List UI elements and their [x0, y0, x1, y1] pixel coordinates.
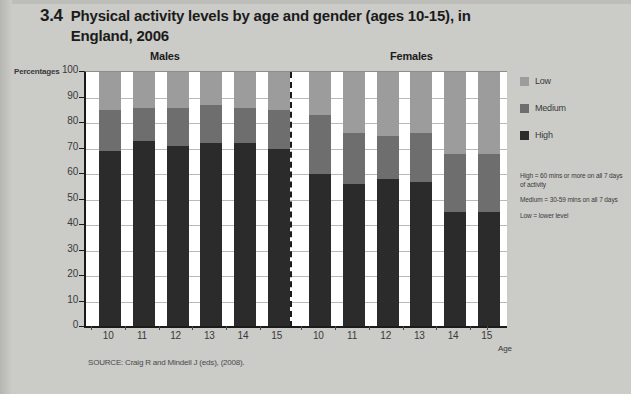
legend-item-medium: Medium	[520, 103, 625, 113]
bar-segment-low	[99, 72, 121, 110]
figure-title-row: 3.4 Physical activity levels by age and …	[40, 6, 617, 46]
chart-plot-area	[84, 71, 507, 327]
x-axis-labels: 101112131415101112131415	[84, 330, 507, 350]
bar-segment-medium	[234, 108, 256, 144]
bar-stack	[410, 72, 432, 327]
x-tick-mark	[436, 326, 437, 330]
y-tick-label: 50	[67, 192, 78, 203]
chart-legend: LowMediumHigh	[520, 76, 625, 157]
legend-item-label: Medium	[535, 103, 566, 113]
bar-segment-low	[444, 72, 466, 154]
legend-swatch-icon	[520, 77, 529, 86]
bar-segment-high	[309, 174, 331, 327]
definition-line: Medium = 30-59 mins on all 7 days	[520, 196, 628, 205]
group-header-males: Males	[150, 50, 180, 62]
page-top-edge	[0, 0, 631, 4]
legend-swatch-icon	[520, 104, 529, 113]
bar-segment-high	[234, 143, 256, 327]
bar-stack	[200, 72, 222, 327]
y-tick-label: 90	[67, 90, 78, 101]
bar-segment-low	[234, 72, 256, 108]
bar-segment-high	[99, 151, 121, 327]
bar-stack	[343, 72, 365, 327]
x-tick-mark	[470, 326, 471, 330]
x-tick-label: 15	[481, 330, 492, 341]
definition-line: Low = lower level	[520, 212, 628, 221]
x-tick-mark	[125, 326, 126, 330]
bar-segment-low	[343, 72, 365, 133]
y-tick-label: 0	[73, 319, 78, 330]
bar-stack	[268, 72, 290, 327]
group-header-females: Females	[390, 50, 433, 62]
bar-segment-high	[377, 179, 399, 327]
bar-stack	[234, 72, 256, 327]
x-tick-mark	[487, 326, 488, 330]
bar-stack	[167, 72, 189, 327]
x-tick-label: 10	[103, 330, 114, 341]
bar-segment-high	[167, 146, 189, 327]
bar-segment-high	[268, 149, 290, 328]
y-tick-label: 40	[67, 217, 78, 228]
bar-segment-low	[133, 72, 155, 108]
bar-segment-medium	[444, 154, 466, 213]
x-tick-mark	[335, 326, 336, 330]
bar-segment-medium	[377, 136, 399, 179]
bar-stack	[444, 72, 466, 327]
x-tick-label: 12	[170, 330, 181, 341]
bar-segment-medium	[309, 115, 331, 174]
bar-stack	[309, 72, 331, 327]
x-tick-label: 10	[313, 330, 324, 341]
y-tick-label: 80	[67, 115, 78, 126]
bar-stack	[99, 72, 121, 327]
x-tick-label: 13	[204, 330, 215, 341]
bar-segment-medium	[133, 108, 155, 141]
legend-item-low: Low	[520, 76, 625, 86]
bar-segment-low	[268, 72, 290, 110]
bar-segment-high	[444, 212, 466, 327]
bar-segment-medium	[99, 110, 121, 151]
legend-item-high: High	[520, 130, 625, 140]
x-tick-label: 13	[414, 330, 425, 341]
y-tick-label: 60	[67, 166, 78, 177]
bar-segment-high	[133, 141, 155, 327]
bar-segment-medium	[478, 154, 500, 213]
x-tick-label: 14	[448, 330, 459, 341]
bar-segment-high	[343, 184, 365, 327]
bar-segment-low	[309, 72, 331, 115]
gender-divider	[290, 72, 292, 327]
y-tick-label: 10	[67, 294, 78, 305]
bar-segment-low	[167, 72, 189, 108]
x-tick-mark	[159, 326, 160, 330]
legend-item-label: Low	[535, 76, 551, 86]
bar-segment-low	[377, 72, 399, 136]
bar-segment-low	[478, 72, 500, 154]
page-title: Physical activity levels by age and gend…	[71, 6, 501, 46]
bar-segment-low	[410, 72, 432, 133]
y-tick-label: 30	[67, 243, 78, 254]
x-tick-label: 14	[238, 330, 249, 341]
bar-stack	[377, 72, 399, 327]
x-tick-label: 15	[271, 330, 282, 341]
bar-segment-medium	[410, 133, 432, 181]
bar-segment-high	[478, 212, 500, 327]
x-axis-title: Age	[498, 344, 512, 353]
x-tick-mark	[226, 326, 227, 330]
legend-swatch-icon	[520, 131, 529, 140]
x-axis-line	[84, 326, 507, 328]
y-tick-label: 20	[67, 268, 78, 279]
bar-segment-medium	[167, 108, 189, 146]
legend-definitions: High = 60 mins or more on all 7 days of …	[520, 172, 628, 227]
bar-stack	[478, 72, 500, 327]
legend-item-label: High	[535, 130, 553, 140]
x-tick-mark	[91, 326, 92, 330]
chart-bars	[86, 72, 507, 327]
x-tick-mark	[301, 326, 302, 330]
x-tick-mark	[192, 326, 193, 330]
x-tick-mark	[369, 326, 370, 330]
bar-segment-high	[410, 182, 432, 327]
x-tick-label: 11	[137, 330, 147, 341]
x-tick-mark	[260, 326, 261, 330]
x-tick-label: 11	[347, 330, 357, 341]
x-tick-mark	[403, 326, 404, 330]
bar-segment-medium	[268, 110, 290, 148]
